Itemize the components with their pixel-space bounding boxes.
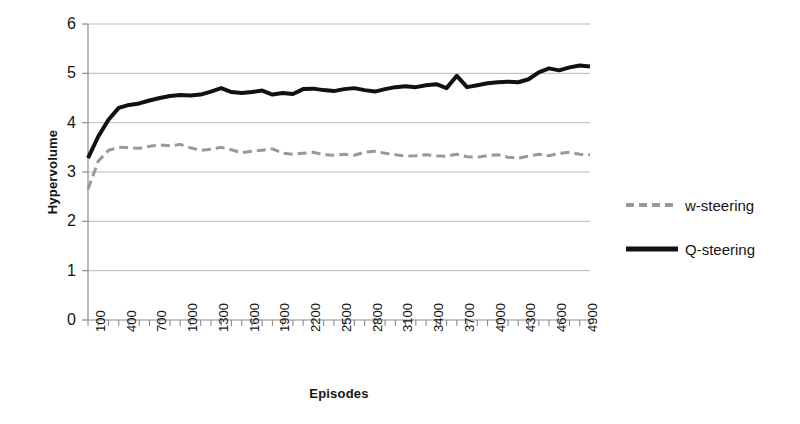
legend-swatch-solid-icon [625, 242, 679, 256]
x-tick-label: 4300 [524, 303, 537, 332]
legend-swatch-dashed-icon [625, 198, 679, 212]
x-tick-label: 3700 [463, 303, 476, 332]
legend-label-q-steering: Q-steering [679, 241, 755, 258]
y-axis-title: Hypervolume [42, 22, 64, 322]
gridlines [88, 24, 590, 271]
x-tick-label: 1300 [217, 303, 230, 332]
legend-item-w-steering: w-steering [625, 183, 793, 227]
x-tick-label: 1600 [248, 303, 261, 332]
x-tick-label: 2500 [340, 303, 353, 332]
legend-item-q-steering: Q-steering [625, 227, 793, 271]
series-w-steering [88, 144, 590, 189]
x-tick-label: 4600 [555, 303, 568, 332]
x-tick-label: 4000 [494, 303, 507, 332]
chart-legend: w-steering Q-steering [625, 183, 793, 271]
x-tick-label: 2200 [309, 303, 322, 332]
x-tick-label: 3100 [401, 303, 414, 332]
x-tick-label: 2800 [371, 303, 384, 332]
x-tick-label: 400 [125, 310, 138, 332]
x-tick-label: 4900 [586, 303, 599, 332]
x-tick-label: 1900 [278, 303, 291, 332]
y-axis-ticks [82, 24, 88, 320]
x-tick-label: 700 [155, 310, 168, 332]
x-tick-label: 100 [94, 310, 107, 332]
chart-container: 0123456 10040070010001300160019002200250… [0, 0, 800, 424]
x-axis-title: Episodes [88, 386, 590, 402]
x-tick-label: 1000 [186, 303, 199, 332]
x-tick-label: 3400 [432, 303, 445, 332]
legend-label-w-steering: w-steering [679, 197, 754, 214]
